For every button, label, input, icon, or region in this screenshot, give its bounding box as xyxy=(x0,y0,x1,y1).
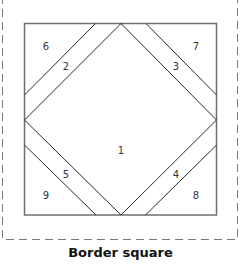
piece-label-4: 4 xyxy=(173,169,179,180)
piece-label-2: 2 xyxy=(63,61,69,72)
piece-label-1: 1 xyxy=(118,145,124,156)
center-diamond xyxy=(25,24,217,216)
diagram-title: Border square xyxy=(0,245,241,260)
piece-label-5: 5 xyxy=(63,169,69,180)
piece-label-7: 7 xyxy=(193,41,199,52)
piece-label-9: 9 xyxy=(43,190,49,201)
piece-label-3: 3 xyxy=(173,61,179,72)
piece-label-8: 8 xyxy=(193,190,199,201)
piece-labels: 123456789 xyxy=(43,41,199,201)
piece-label-6: 6 xyxy=(43,41,49,52)
dashed-border xyxy=(3,0,238,240)
border-square-diagram: 123456789 xyxy=(0,0,241,264)
outer-square xyxy=(25,24,217,216)
